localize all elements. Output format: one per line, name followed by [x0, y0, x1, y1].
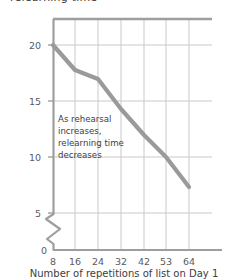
y-tick-label-20: 20	[29, 40, 41, 51]
x-tick-label-53: 53	[160, 256, 172, 267]
y-tick-label-15: 15	[29, 96, 41, 107]
annotation-line-3: relearning time	[58, 138, 124, 148]
chart-title-clipped: relearning time	[0, 0, 226, 7]
annotation-line-2: increases,	[58, 126, 101, 136]
chart-svg: 20 15 10 5 0 8 16 24 32 42 53 64 As rehe…	[0, 0, 226, 279]
x-tick-label-8: 8	[50, 256, 56, 267]
x-tick-label-42: 42	[138, 256, 150, 267]
annotation-line-4: decreases	[58, 150, 102, 160]
chart-container: relearning time	[0, 0, 226, 279]
x-axis-title: Number of repetitions of list on Day 1	[30, 268, 219, 279]
y-tick-label-5: 5	[35, 208, 41, 219]
x-tick-label-16: 16	[69, 256, 81, 267]
annotation-line-1: As rehearsal	[58, 114, 111, 124]
y-tick-marks	[48, 45, 53, 213]
x-tick-label-24: 24	[92, 256, 104, 267]
chart-title-text: relearning time	[0, 0, 226, 4]
y-tick-label-0: 0	[41, 245, 47, 256]
x-tick-label-32: 32	[115, 256, 127, 267]
y-tick-label-10: 10	[29, 152, 41, 163]
x-tick-label-64: 64	[183, 256, 195, 267]
